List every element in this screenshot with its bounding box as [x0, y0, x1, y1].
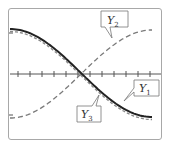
graph-plot: Y2 Y1 Y3 — [0, 0, 170, 148]
label-y2: Y2 — [101, 11, 128, 38]
label-y1: Y1 — [124, 80, 159, 101]
series-y1 — [10, 29, 152, 117]
label-y3: Y3 — [77, 95, 101, 123]
